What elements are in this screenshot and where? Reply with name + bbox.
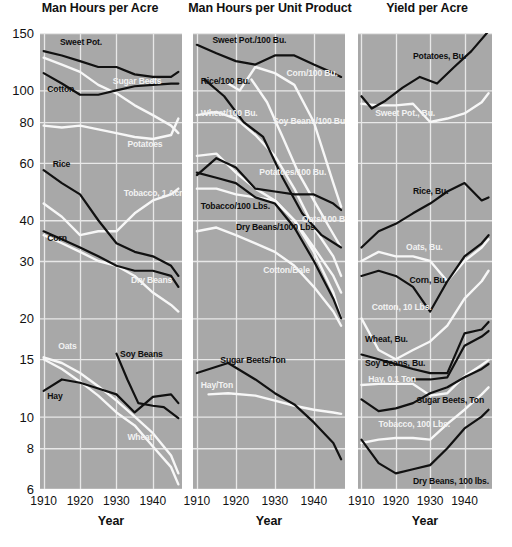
series-label: Rice, Bu. xyxy=(413,187,448,196)
panel-title: Yield per Acre xyxy=(352,1,502,15)
series-label: Potatoes, Bu. xyxy=(413,52,466,61)
series-label: Oats, Bu. xyxy=(406,243,442,252)
figure-root: Man Hours per AcreSweet Pot.Sugar BeetsC… xyxy=(0,0,512,547)
x-axis-tick-label: 1930 xyxy=(417,495,444,507)
x-axis-tick-label: 1910 xyxy=(348,495,375,507)
series-line xyxy=(361,33,488,109)
chart-panel-yield-per-acre: Yield per AcrePotatoes, Bu.Sweet Pot., B… xyxy=(0,0,512,547)
series-label: Sweet Pot., Bu. xyxy=(375,109,435,118)
series-label: Sugar Beets, Ton xyxy=(416,396,484,405)
plot-area: Potatoes, Bu.Sweet Pot., Bu.Rice, Bu.Oat… xyxy=(358,33,492,489)
x-axis-tick-label: 1940 xyxy=(451,495,478,507)
x-axis-title: Year xyxy=(412,514,438,528)
series-label: Hay, 0.1 Ton xyxy=(368,375,416,384)
series-label: Wheat, Bu. xyxy=(365,335,408,344)
series-label: Soy Beans, Bu. xyxy=(365,359,425,368)
series-label: Cotton, 10 Lbs. xyxy=(372,303,432,312)
series-label: Corn, Bu. xyxy=(410,276,447,285)
x-axis-tick-label: 1920 xyxy=(382,495,409,507)
series-label: Dry Beans, 100 lbs. xyxy=(413,477,489,486)
series-label: Tobacco, 100 Lbs. xyxy=(379,420,450,429)
